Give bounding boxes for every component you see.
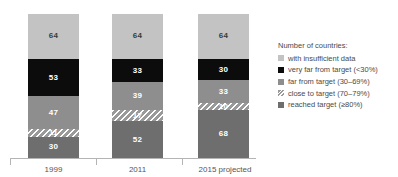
- legend: Number of countries: with insufficient d…: [278, 42, 398, 113]
- bar-stack: 64 30 33 10 68: [198, 14, 249, 158]
- bar-stack: 64 53 47 11 30: [28, 14, 79, 158]
- bar-segment-value: 64: [133, 32, 142, 40]
- bar-segment-close: 11: [28, 129, 79, 137]
- bar-segment-veryfar: 33: [112, 59, 163, 82]
- legend-title: Number of countries:: [278, 42, 398, 50]
- bar-segment-far: 39: [112, 82, 163, 109]
- bar-segment-value: 17: [133, 112, 142, 120]
- legend-swatch-icon: [278, 55, 284, 61]
- legend-item-reached: reached target (≥80%): [278, 101, 398, 109]
- legend-item-far: far from target (30–69%): [278, 78, 398, 86]
- legend-item-veryfar: very far from target (<30%): [278, 66, 398, 74]
- bar-segment-far: 47: [28, 96, 79, 129]
- legend-item-label: close to target (70–79%): [288, 90, 370, 98]
- legend-swatch-icon: [278, 67, 284, 73]
- legend-swatch-icon: [278, 90, 284, 96]
- bar-segment-value: 39: [133, 92, 142, 100]
- legend-item-label: far from target (30–69%): [288, 78, 370, 86]
- legend-item-close: close to target (70–79%): [278, 90, 398, 98]
- x-axis-line: [10, 158, 256, 159]
- bar-segment-close: 17: [112, 110, 163, 122]
- bar-group-2015-projected: 64 30 33 10 68: [198, 14, 249, 158]
- bar-segment-value: 64: [219, 32, 228, 40]
- bar-segment-veryfar: 30: [198, 59, 249, 80]
- bar-segment-value: 47: [49, 109, 58, 117]
- bar-segment-value: 53: [49, 74, 58, 82]
- legend-swatch-icon: [278, 102, 284, 108]
- legend-item-insufficient: with insufficient data: [278, 55, 398, 63]
- plot-area: 64 53 47 11 30 64: [0, 0, 268, 177]
- bar-segment-reached: 30: [28, 137, 79, 158]
- bar-segment-value: 64: [49, 32, 58, 40]
- axis-label-2011: 2011: [112, 166, 163, 174]
- bar-segment-reached: 52: [112, 121, 163, 158]
- axis-tick: [182, 159, 183, 165]
- axis-tick: [10, 159, 11, 165]
- bar-segment-veryfar: 53: [28, 59, 79, 96]
- bar-group-2011: 64 33 39 17 52: [112, 14, 163, 158]
- legend-swatch-icon: [278, 79, 284, 85]
- axis-label-1999: 1999: [28, 166, 79, 174]
- bar-segment-value: 52: [133, 136, 142, 144]
- bar-segment-value: 68: [219, 130, 228, 138]
- bar-segment-insufficient: 64: [112, 14, 163, 59]
- bar-stack: 64 33 39 17 52: [112, 14, 163, 158]
- bar-group-1999: 64 53 47 11 30: [28, 14, 79, 158]
- bar-segment-insufficient: 64: [28, 14, 79, 59]
- bar-segment-reached: 68: [198, 110, 249, 158]
- axis-tick: [96, 159, 97, 165]
- bar-segment-close: 10: [198, 103, 249, 110]
- legend-item-label: reached target (≥80%): [288, 101, 363, 109]
- bar-segment-insufficient: 64: [198, 14, 249, 59]
- bar-segment-value: 10: [219, 103, 228, 110]
- bar-segment-value: 33: [219, 88, 228, 96]
- stacked-bar-chart: 64 53 47 11 30 64: [0, 0, 398, 177]
- legend-item-label: with insufficient data: [288, 55, 355, 63]
- bar-segment-value: 30: [49, 143, 58, 151]
- bar-segment-value: 11: [49, 129, 58, 137]
- legend-item-label: very far from target (<30%): [288, 66, 378, 74]
- bar-segment-far: 33: [198, 80, 249, 103]
- bar-segment-value: 30: [219, 66, 228, 74]
- bar-segment-value: 33: [133, 67, 142, 75]
- axis-label-2015-projected: 2015 projected: [194, 166, 256, 174]
